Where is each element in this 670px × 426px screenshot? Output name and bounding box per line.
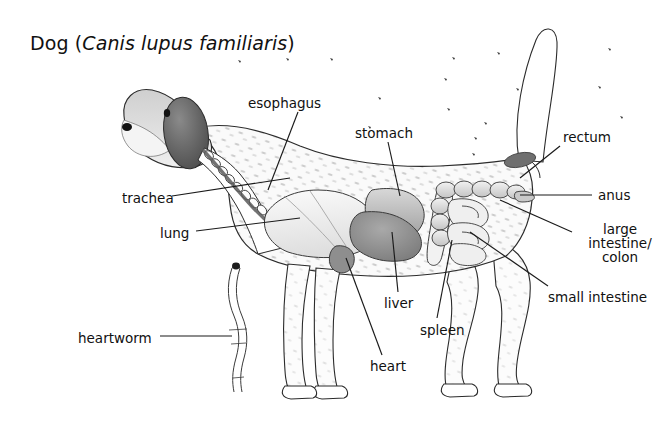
label-heart: heart [370, 359, 406, 373]
label-stomach: stomach [355, 126, 413, 140]
label-esophagus: esophagus [248, 96, 321, 110]
title-scientific-name: Canis lupus familiaris [82, 32, 287, 54]
small-intestine-organ [448, 199, 490, 266]
label-large-intestine: large intestine/ colon [580, 222, 660, 264]
label-heartworm: heartworm [78, 331, 152, 345]
label-trachea: trachea [122, 191, 174, 205]
label-small-intestine: small intestine [548, 290, 647, 304]
anatomy-figure: Dog (Canis lupus familiaris) esophagus s… [0, 0, 670, 426]
title-common-name: Dog ( [30, 32, 82, 54]
rectum-organ [514, 191, 534, 202]
label-lung: lung [160, 226, 189, 240]
dog-nose [122, 123, 132, 131]
dog-anatomy-drawing [0, 0, 670, 426]
label-liver: liver [384, 296, 413, 310]
dog-tail [517, 29, 557, 162]
title-close-paren: ) [287, 32, 295, 54]
figure-title: Dog (Canis lupus familiaris) [30, 32, 295, 54]
heartworm-illustration [228, 263, 247, 392]
label-rectum: rectum [563, 130, 611, 144]
label-anus: anus [598, 188, 630, 202]
label-spleen: spleen [420, 323, 465, 337]
dog-eye [164, 109, 170, 117]
dog-front-legs [282, 264, 347, 399]
